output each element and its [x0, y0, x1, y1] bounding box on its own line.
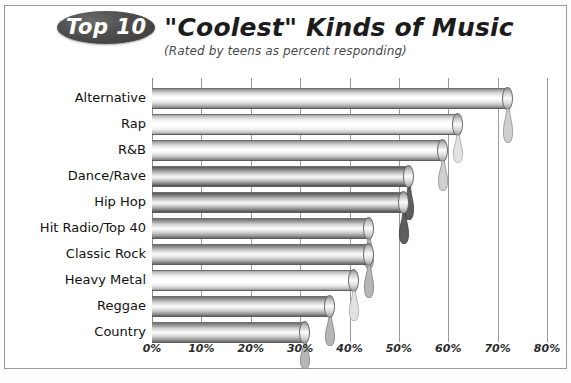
bar-end-cap — [299, 321, 310, 344]
bar-row[interactable] — [152, 189, 547, 215]
bar[interactable] — [152, 166, 409, 187]
category-label: Hip Hop — [94, 189, 146, 215]
bar-body — [152, 140, 443, 161]
bar-end-cap — [502, 87, 513, 110]
x-tick-label: 60% — [435, 342, 461, 355]
x-tick-label: 70% — [484, 342, 510, 355]
bar[interactable] — [152, 88, 508, 109]
category-label: Reggae — [97, 293, 146, 319]
bar-body — [152, 166, 409, 187]
bar-body — [152, 270, 354, 291]
bar-series — [152, 78, 547, 342]
bar[interactable] — [152, 244, 369, 265]
bar-end-cap — [363, 243, 374, 266]
bar-body — [152, 192, 404, 213]
bar[interactable] — [152, 114, 458, 135]
bar-row[interactable] — [152, 267, 547, 293]
page-title: "Coolest" Kinds of Music — [164, 13, 514, 42]
bar[interactable] — [152, 218, 369, 239]
category-label: Rap — [121, 111, 146, 137]
bar-row[interactable] — [152, 85, 547, 111]
title-row: Top 10 "Coolest" Kinds of Music — [0, 8, 571, 46]
chart-header: Top 10 "Coolest" Kinds of Music (Rated b… — [0, 8, 571, 58]
bar-row[interactable] — [152, 137, 547, 163]
bar-end-cap — [452, 113, 463, 136]
category-label: Classic Rock — [66, 241, 146, 267]
x-tick-label: 10% — [188, 342, 214, 355]
bar-row[interactable] — [152, 293, 547, 319]
bar-end-cap — [437, 139, 448, 162]
x-tick-label: 80% — [534, 342, 560, 355]
plot-area — [152, 78, 547, 342]
bar-row[interactable] — [152, 215, 547, 241]
bar-end-cap — [348, 269, 359, 292]
category-label: Heavy Metal — [65, 267, 146, 293]
bar[interactable] — [152, 140, 443, 161]
x-tick-label: 40% — [336, 342, 362, 355]
category-label: Country — [94, 319, 146, 345]
bar[interactable] — [152, 192, 404, 213]
bar-row[interactable] — [152, 241, 547, 267]
bar[interactable] — [152, 296, 330, 317]
bar[interactable] — [152, 322, 305, 343]
bar-end-cap — [398, 191, 409, 214]
chart-container: Top 10 "Coolest" Kinds of Music (Rated b… — [0, 0, 571, 383]
gridline-80 — [547, 78, 548, 342]
bar-body — [152, 218, 369, 239]
chart-subtitle: (Rated by teens as percent responding) — [0, 44, 571, 58]
x-tick-label: 0% — [143, 342, 162, 355]
bar-body — [152, 114, 458, 135]
bar-body — [152, 322, 305, 343]
bar-end-cap — [363, 217, 374, 240]
top-10-badge: Top 10 — [57, 11, 155, 44]
bar-body — [152, 244, 369, 265]
category-axis-labels: AlternativeRapR&BDance/RaveHip HopHit Ra… — [8, 78, 146, 342]
x-tick-label: 50% — [386, 342, 412, 355]
bar-body — [152, 88, 508, 109]
bar-body — [152, 296, 330, 317]
x-tick-label: 30% — [287, 342, 313, 355]
bar[interactable] — [152, 270, 354, 291]
category-label: Hit Radio/Top 40 — [40, 215, 146, 241]
bar-row[interactable] — [152, 111, 547, 137]
bar-end-cap — [403, 165, 414, 188]
category-label: R&B — [118, 137, 146, 163]
x-axis-ticks: 0%10%20%30%40%50%60%70%80% — [152, 342, 547, 366]
category-label: Dance/Rave — [68, 163, 146, 189]
x-tick-label: 20% — [238, 342, 264, 355]
bar-row[interactable] — [152, 163, 547, 189]
category-label: Alternative — [75, 85, 146, 111]
bar-end-cap — [324, 295, 335, 318]
